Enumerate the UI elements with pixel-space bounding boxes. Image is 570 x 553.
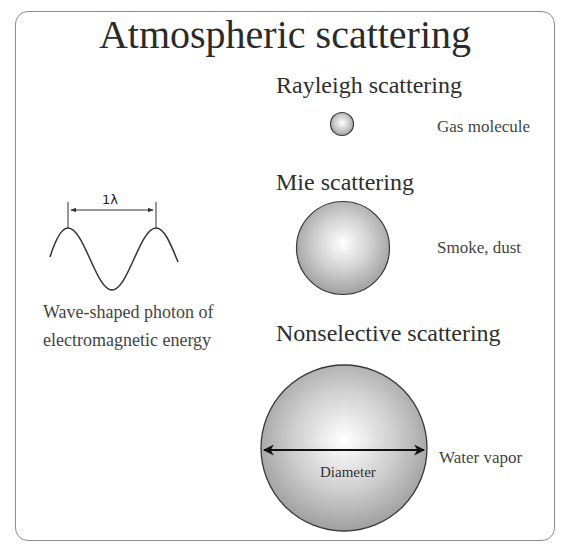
photon-caption-line2: electromagnetic energy (43, 326, 211, 354)
diameter-label: Diameter (320, 462, 376, 482)
photon-caption-line1: Wave-shaped photon of (43, 298, 214, 326)
gas-molecule-sphere-icon (331, 113, 354, 136)
nonselective-heading: Nonselective scattering (276, 319, 501, 347)
wavelength-label: 1λ (102, 190, 118, 210)
photon-wave-icon (50, 202, 178, 290)
rayleigh-heading: Rayleigh scattering (276, 71, 462, 99)
water-vapor-sphere-icon (261, 365, 427, 531)
mie-heading: Mie scattering (276, 168, 414, 196)
gas-molecule-label: Gas molecule (437, 117, 530, 137)
water-vapor-label: Water vapor (439, 448, 522, 468)
smoke-dust-label: Smoke, dust (437, 238, 521, 258)
smoke-dust-sphere-icon (297, 202, 390, 295)
